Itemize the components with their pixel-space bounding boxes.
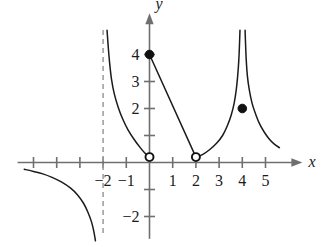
x-axis-label: x [308,154,315,170]
y-tick-label: 4 [132,47,140,63]
open-point-0-0-marker [146,153,154,161]
x-tick-label: 3 [207,173,231,189]
curve-branch-upper-left [107,30,149,157]
y-tick-label: 2 [132,101,140,117]
filled-point-0-4-marker [145,50,154,59]
x-tick-label: 2 [184,173,208,189]
graph-canvas [0,0,330,247]
y-tick-label: −2 [122,209,139,225]
open-point-2-0-marker [192,153,200,161]
marker-group [145,50,246,161]
x-tick-label: 1 [161,173,185,189]
curve-branch-right-of-four [245,30,279,147]
y-axis-label: y [156,0,163,12]
axes-group [18,13,303,239]
curve-segment-zero-to-two [150,55,196,158]
y-tick-label: 3 [132,74,140,90]
x-tick-label: −2 [91,173,115,189]
filled-point-4-2-marker [238,104,247,113]
x-axis-arrow [291,158,302,166]
y-axis-arrow [145,13,153,24]
graph-figure: −2−112345432−2 x y [0,0,330,247]
x-tick-label: 4 [230,173,254,189]
x-tick-label: 5 [254,173,278,189]
curve-branch-lower-left [24,169,95,241]
x-tick-label: −1 [114,173,138,189]
curve-branch-left-of-four [197,30,240,157]
